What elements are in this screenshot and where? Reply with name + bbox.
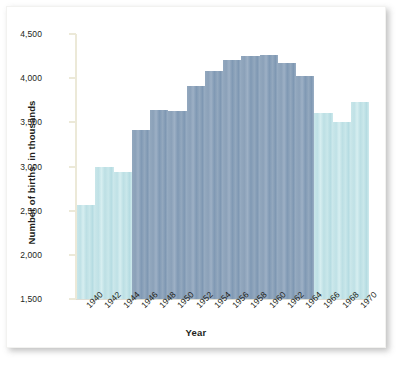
bar (77, 205, 95, 299)
bar (95, 167, 113, 299)
bar (351, 102, 369, 299)
bar (205, 71, 223, 299)
y-axis-title: Number of births, in thousands (26, 73, 37, 273)
bar (132, 130, 150, 299)
bar (187, 86, 205, 299)
bar (296, 76, 314, 299)
chart-plot-wrapper: Number of births, in thousands 4,5004,00… (7, 7, 385, 347)
bar (260, 55, 278, 299)
y-axis-tick (69, 210, 76, 212)
y-axis-tick-label: 3,000 (0, 162, 42, 172)
y-axis-tick (69, 33, 76, 35)
bar (114, 172, 132, 299)
bar (314, 113, 332, 299)
y-axis-tick-label: 2,000 (0, 250, 42, 260)
bar (150, 110, 168, 299)
bar (333, 122, 351, 299)
y-axis-tick-label: 2,500 (0, 206, 42, 216)
y-axis-tick (69, 298, 76, 300)
y-axis-tick (69, 166, 76, 168)
y-axis-tick (69, 254, 76, 256)
screenshot-frame: Number of births, in thousands 4,5004,00… (0, 0, 403, 365)
x-axis-title: Year (7, 327, 385, 338)
bar (278, 63, 296, 299)
chart-card: Number of births, in thousands 4,5004,00… (6, 6, 386, 348)
y-axis-tick-label: 4,500 (0, 29, 42, 39)
y-axis-tick-label: 1,500 (0, 294, 42, 304)
bar (223, 60, 241, 299)
y-axis-tick (69, 121, 76, 123)
y-axis-tick-label: 4,000 (0, 73, 42, 83)
bar (241, 56, 259, 299)
bar (168, 111, 186, 299)
y-axis-tick-label: 3,500 (0, 117, 42, 127)
y-axis-tick (69, 77, 76, 79)
